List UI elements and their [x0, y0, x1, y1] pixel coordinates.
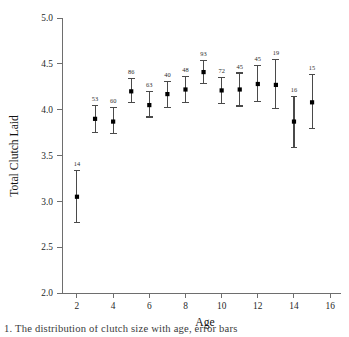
- caption-text: 1. The distribution of clutch size with …: [4, 325, 348, 334]
- data-marker: [165, 92, 169, 96]
- data-marker: [292, 119, 296, 123]
- data-marker: [93, 117, 97, 121]
- sample-size-label: 86: [128, 68, 134, 75]
- sample-size-label: 15: [309, 64, 315, 71]
- y-tick-label: 4.0: [41, 105, 53, 115]
- x-tick-label: 12: [253, 301, 263, 311]
- data-point-group: 16: [291, 86, 298, 147]
- data-marker: [147, 103, 151, 107]
- data-marker: [111, 119, 115, 123]
- x-tick-label: 8: [183, 301, 188, 311]
- data-marker: [220, 88, 224, 92]
- y-tick-label: 3.5: [41, 151, 53, 161]
- data-point-group: 60: [110, 97, 117, 133]
- y-tick-label: 5.0: [41, 13, 53, 23]
- data-marker: [310, 100, 314, 104]
- data-point-group: 14: [74, 160, 81, 223]
- sample-size-label: 48: [182, 66, 188, 73]
- sample-size-label: 45: [255, 55, 261, 62]
- x-tick-label: 2: [75, 301, 80, 311]
- data-marker: [129, 89, 133, 93]
- data-marker: [201, 70, 205, 74]
- data-point-group: 19: [272, 49, 279, 109]
- data-point-group: 63: [146, 81, 153, 117]
- data-marker: [183, 87, 187, 91]
- x-tick-label: 4: [111, 301, 116, 311]
- x-tick-label: 16: [325, 301, 335, 311]
- y-axis-ticks: 2.02.53.03.54.04.55.0: [41, 13, 62, 298]
- sample-size-label: 16: [291, 86, 297, 93]
- y-tick-label: 3.0: [41, 197, 53, 207]
- figure-container: 2.02.53.03.54.04.55.0 246810121416 14536…: [0, 0, 349, 337]
- x-axis-ticks: 246810121416: [75, 294, 336, 312]
- data-marker: [274, 83, 278, 87]
- data-point-group: 45: [236, 63, 243, 107]
- sample-size-label: 45: [237, 63, 243, 70]
- y-tick-label: 4.5: [41, 59, 53, 69]
- sample-size-label: 72: [218, 67, 224, 74]
- data-marker: [75, 195, 79, 199]
- y-tick-label: 2.5: [41, 242, 53, 252]
- scatter-plot: 2.02.53.03.54.04.55.0 246810121416 14536…: [0, 0, 349, 337]
- data-point-group: 40: [164, 71, 171, 108]
- data-marker: [238, 87, 242, 91]
- data-point-group: 15: [309, 64, 316, 129]
- sample-size-label: 19: [273, 49, 279, 56]
- data-series-layer: 1453608663404893724545191615: [74, 49, 316, 223]
- sample-size-label: 60: [110, 97, 116, 104]
- sample-size-label: 40: [164, 71, 170, 78]
- x-tick-label: 10: [217, 301, 227, 311]
- figure-caption: 1. The distribution of clutch size with …: [0, 325, 349, 337]
- sample-size-label: 53: [92, 95, 98, 102]
- sample-size-label: 93: [200, 50, 206, 57]
- x-tick-label: 14: [289, 301, 299, 311]
- x-tick-label: 6: [147, 301, 152, 311]
- y-tick-label: 2.0: [41, 288, 53, 298]
- data-point-group: 48: [182, 66, 189, 102]
- data-point-group: 93: [200, 50, 207, 83]
- data-point-group: 86: [128, 68, 135, 102]
- data-point-group: 45: [254, 55, 261, 101]
- data-point-group: 72: [218, 67, 225, 103]
- data-point-group: 53: [92, 95, 99, 133]
- data-marker: [256, 82, 260, 86]
- sample-size-label: 63: [146, 81, 152, 88]
- sample-size-label: 14: [74, 160, 81, 167]
- y-axis-title: Total Clutch Laid: [8, 115, 21, 197]
